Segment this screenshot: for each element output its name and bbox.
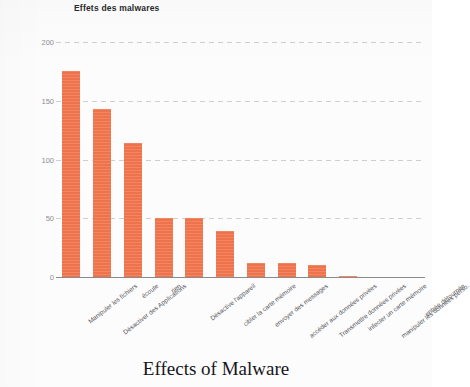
bar bbox=[308, 265, 326, 277]
x-tick-label: Manipuler les fichiers bbox=[87, 282, 139, 324]
bar bbox=[124, 143, 142, 277]
bar bbox=[278, 263, 296, 277]
bar bbox=[62, 71, 80, 277]
x-tick-label: rien bbox=[169, 282, 182, 294]
chart-title: Effets des malwares bbox=[74, 3, 160, 13]
bar bbox=[155, 218, 173, 277]
x-axis-line bbox=[56, 277, 425, 278]
x-tick-label: Désactive l'appareil bbox=[209, 282, 257, 322]
x-tick-label: Désactiver des Applications bbox=[122, 282, 188, 336]
x-tick-label: entrée détournée bbox=[423, 282, 466, 317]
x-tick-label: écoute bbox=[140, 282, 159, 299]
x-tick-label: infecter un carte mémoire bbox=[366, 282, 427, 332]
bar bbox=[185, 218, 203, 277]
bar bbox=[247, 263, 265, 277]
y-tick-label: 0 bbox=[20, 273, 54, 282]
x-tick-label: envoyer des messages bbox=[273, 282, 329, 328]
y-tick-label: 150 bbox=[20, 96, 54, 105]
y-tick-label: 100 bbox=[20, 155, 54, 164]
x-tick-label: manipuler les données perso. bbox=[400, 282, 470, 339]
x-tick-label: Transmettre données privées bbox=[338, 282, 408, 339]
x-tick-label: cibler la carte mémoire bbox=[242, 282, 297, 327]
y-tick-label: 200 bbox=[20, 38, 54, 47]
figure-caption: Effects of Malware bbox=[0, 358, 432, 380]
bar bbox=[216, 231, 234, 277]
bar bbox=[339, 276, 357, 277]
bar bbox=[93, 109, 111, 277]
bar-series bbox=[56, 42, 425, 277]
y-axis-tick-labels: 050100150200 bbox=[10, 0, 54, 387]
x-tick-label: accéder aux données privées bbox=[307, 282, 377, 339]
y-tick-label: 50 bbox=[20, 214, 54, 223]
